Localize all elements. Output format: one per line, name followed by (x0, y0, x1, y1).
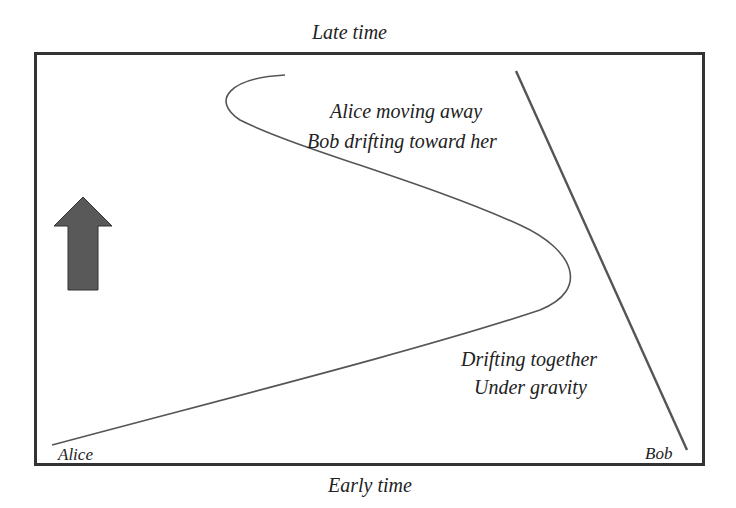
time-arrow-icon (54, 197, 112, 290)
annotation-lower-line2: Under gravity (474, 377, 587, 397)
annotation-upper-line1: Alice moving away (330, 101, 482, 121)
annotation-upper-line2: Bob drifting toward her (307, 131, 497, 151)
worldline-canvas (0, 0, 736, 508)
bob-label: Bob (645, 445, 672, 462)
annotation-lower-line1: Drifting together (461, 349, 597, 369)
alice-label: Alice (58, 446, 93, 463)
early-time-label: Early time (328, 475, 412, 495)
